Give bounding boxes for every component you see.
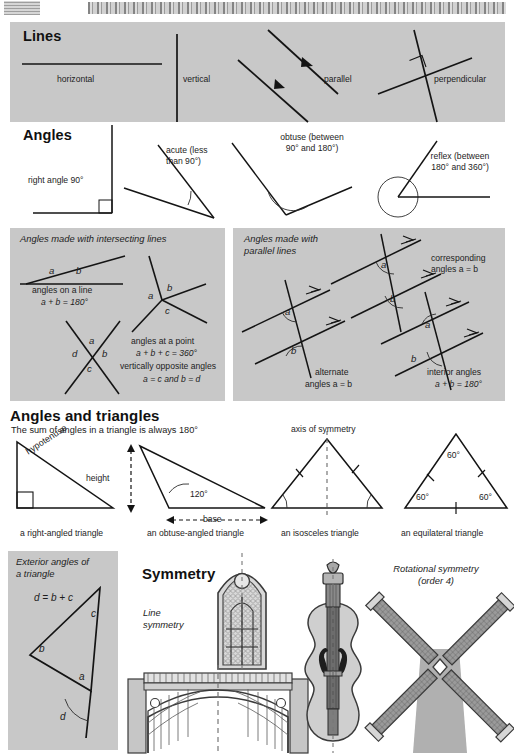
caption-vertically-opposite-formula: a = c and b = d: [143, 374, 200, 385]
intersecting-lines-panel: Angles made with intersecting lines a b …: [10, 228, 225, 401]
caption-obtuse-angled-triangle: an obtuse-angled triangle: [147, 528, 244, 539]
annotation-equilateral-apex-60: 60°: [447, 450, 460, 461]
exterior-mark-a: a: [79, 672, 85, 683]
annotation-height: height: [86, 473, 109, 484]
mark-c-vertical: c: [87, 364, 92, 375]
mark-a-alternate: a: [285, 307, 290, 318]
angles-label-reflex-line2: 180° and 360°): [431, 162, 489, 172]
rotational-symmetry-line1: Rotational symmetry: [393, 563, 478, 574]
mark-a-line: a: [49, 266, 54, 277]
mark-a-vertical: a: [89, 336, 94, 347]
mark-a-interior: a: [425, 320, 430, 331]
caption-alternate: alternate: [315, 367, 348, 378]
scan-artifact-strip: [0, 0, 514, 18]
exterior-mark-c: c: [91, 609, 96, 620]
caption-angles-at-a-point: angles at a point: [131, 336, 194, 347]
caption-right-angled-triangle: a right-angled triangle: [20, 528, 103, 539]
angles-label-obtuse-line2: 90° and 180°): [286, 143, 339, 153]
stone-bridge-figure: [128, 659, 308, 755]
mark-b-alternate: b: [291, 346, 296, 357]
mark-b-corresponding: b: [390, 294, 395, 305]
lines-label-perpendicular: perpendicular: [434, 74, 486, 85]
rotational-symmetry-label: Rotational symmetry (order 4): [366, 563, 506, 586]
annotation-obtuse-angle: 120°: [190, 489, 208, 500]
caption-vertically-opposite: vertically opposite angles: [120, 361, 216, 372]
scan-smudge-top: [88, 2, 506, 14]
mark-a-corresponding: a: [381, 260, 386, 271]
line-symmetry-line2: symmetry: [143, 619, 184, 630]
mark-d-vertical: d: [72, 349, 77, 360]
scan-smudge-left: [4, 1, 40, 15]
angles-label-obtuse: obtuse (between 90° and 180°): [263, 132, 361, 153]
caption-angles-on-a-line: angles on a line: [32, 285, 92, 296]
line-symmetry-label: Line symmetry: [143, 607, 184, 630]
caption-corresponding-formula: angles a = b: [431, 264, 478, 275]
caption-corresponding: corresponding: [431, 253, 485, 264]
caption-interior: interior angles: [427, 367, 481, 378]
gothic-window-figure: [198, 551, 288, 671]
exterior-mark-d: d: [60, 712, 66, 723]
lines-panel: Lines horizontal vertical parallel perpe…: [10, 22, 505, 122]
angles-label-obtuse-line1: obtuse (between: [280, 132, 344, 142]
lines-label-vertical: vertical: [183, 74, 210, 85]
exterior-angles-panel: Exterior angles of a triangle d = b + c …: [8, 551, 118, 750]
mark-b-interior: b: [411, 354, 416, 365]
angles-label-reflex: reflex (between 180° and 360°): [410, 151, 510, 172]
windmill-figure: [366, 591, 514, 753]
annotation-base: base: [203, 514, 222, 525]
mark-b-point: b: [167, 283, 172, 294]
parallel-lines-panel: Angles made with parallel lines: [233, 228, 505, 401]
mark-b-vertical: b: [102, 349, 107, 360]
annotation-equilateral-left-60: 60°: [416, 492, 429, 503]
caption-alternate-formula: angles a = b: [305, 379, 352, 390]
symmetry-section: Symmetry Line symmetry Rotational symmet…: [118, 551, 514, 753]
caption-interior-formula: a + b = 180°: [435, 379, 482, 390]
angles-section: Angles right angle 90° acute (less than …: [0, 123, 514, 223]
line-symmetry-line1: Line: [143, 607, 161, 618]
angles-label-acute-line2: than 90°): [166, 156, 201, 166]
lines-label-horizontal: horizontal: [57, 74, 94, 85]
mark-b-line: b: [76, 266, 81, 277]
lines-figures-svg: [10, 22, 505, 122]
annotation-equilateral-right-60: 60°: [479, 492, 492, 503]
lines-label-parallel: parallel: [324, 74, 352, 85]
angles-label-acute-line1: acute (less: [166, 145, 208, 155]
caption-angles-on-a-line-formula: a + b = 180°: [41, 297, 88, 308]
angles-label-reflex-line1: reflex (between: [431, 151, 490, 161]
caption-equilateral-triangle: an equilateral triangle: [401, 528, 483, 539]
angles-label-acute: acute (less than 90°): [166, 145, 236, 166]
angles-and-triangles-section: Angles and triangles The sum of angles i…: [0, 403, 514, 548]
caption-angles-at-a-point-formula: a + b + c = 360°: [136, 348, 197, 359]
mark-a-point: a: [148, 291, 153, 302]
angles-figures-svg: [0, 123, 514, 223]
rotational-symmetry-line2: (order 4): [418, 575, 454, 586]
angles-label-right: right angle 90°: [28, 175, 84, 186]
annotation-axis-of-symmetry: axis of symmetry: [291, 424, 355, 435]
mark-c-point: c: [165, 306, 170, 317]
exterior-mark-b: b: [39, 644, 45, 655]
caption-isosceles-triangle: an isosceles triangle: [281, 528, 359, 539]
triangles-figures-svg: [0, 403, 514, 548]
